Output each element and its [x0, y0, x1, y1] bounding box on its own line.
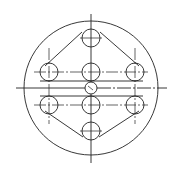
outline-segment	[99, 111, 139, 137]
hole-pattern-outline	[45, 32, 82, 66]
outline-segment	[45, 111, 83, 137]
flange-drawing	[0, 0, 181, 173]
outline-segment	[100, 32, 139, 66]
